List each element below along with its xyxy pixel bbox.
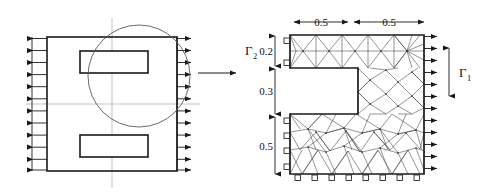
dim-v-bottom-label: 0.5 [259, 140, 273, 152]
mesh-triangulation [290, 35, 424, 174]
roller-support [284, 38, 290, 44]
dim-v-mid-label: 0.3 [259, 85, 273, 97]
lower-slot [80, 135, 148, 157]
roller-support [380, 175, 386, 181]
gamma-1-label: Γ 1 [449, 48, 471, 96]
gamma-1-subscript: 1 [467, 73, 471, 83]
gamma-2-symbol: Γ [245, 43, 253, 58]
roller-support [414, 175, 420, 181]
roller-support [346, 175, 352, 181]
technical-figure: 0.5 0.5 0.2 0.3 0.5 Γ 2 Γ 1 [0, 0, 487, 192]
roller-support [284, 60, 290, 66]
roller-support [312, 175, 318, 181]
right-edge-traction-arrows [424, 37, 437, 169]
roller-support [284, 148, 290, 154]
roller-support [329, 175, 335, 181]
roller-support [284, 118, 290, 124]
mesh-top-arm [290, 35, 424, 68]
supports-bottom [295, 175, 420, 181]
dim-h-right-label: 0.5 [382, 16, 396, 28]
supports-left-lower [284, 118, 290, 170]
mesh-right-column [358, 68, 424, 114]
supports-left-upper [284, 38, 290, 66]
roller-support [284, 133, 290, 139]
dim-h-left-label: 0.5 [314, 16, 328, 28]
gamma-2-subscript: 2 [253, 51, 257, 61]
detail-region-circle [88, 25, 190, 127]
roller-support [295, 175, 301, 181]
roller-support [397, 175, 403, 181]
dim-v-top-label: 0.2 [259, 45, 273, 57]
right-panel-quarter-model: 0.5 0.5 0.2 0.3 0.5 Γ 2 Γ 1 [245, 16, 471, 181]
roller-support [363, 175, 369, 181]
gamma-1-symbol: Γ [459, 65, 467, 80]
symmetry-centerlines [26, 18, 200, 188]
roller-support [284, 164, 290, 170]
figure-root: 0.5 0.5 0.2 0.3 0.5 Γ 2 Γ 1 [0, 0, 487, 192]
gamma-2-label: Γ 2 [245, 43, 257, 61]
left-panel-full-model [26, 18, 200, 188]
mesh-lower-body [290, 114, 424, 174]
